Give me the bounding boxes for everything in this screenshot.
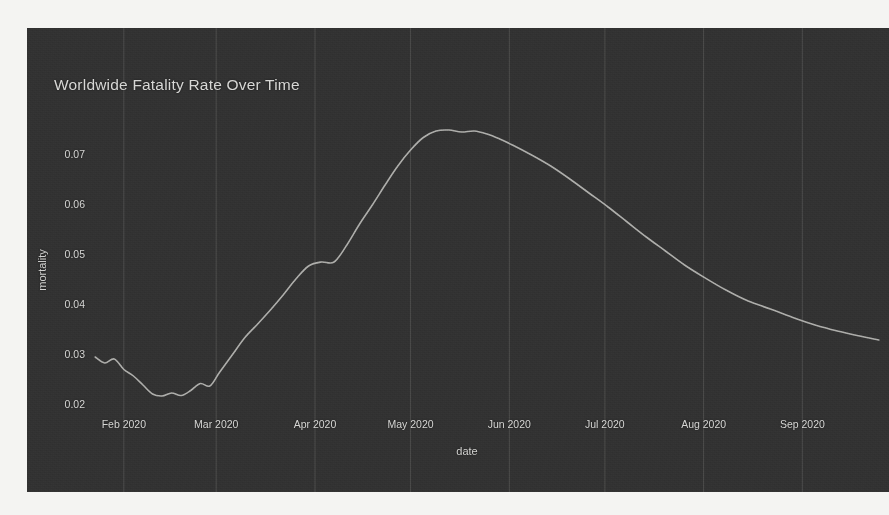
y-tick-label: 0.07 (65, 148, 85, 160)
x-axis-title: date (456, 445, 477, 457)
y-tick-label: 0.04 (65, 298, 85, 310)
x-tick-label: Sep 2020 (780, 418, 825, 430)
chart-panel: Worldwide Fatality Rate Over Time 0.020.… (27, 28, 889, 492)
chart-screenshot: Worldwide Fatality Rate Over Time 0.020.… (0, 0, 889, 515)
x-tick-label: Jul 2020 (585, 418, 625, 430)
x-tick-label: Aug 2020 (681, 418, 726, 430)
mortality-line-series (95, 130, 879, 396)
x-tick-label: Jun 2020 (488, 418, 531, 430)
y-tick-label: 0.03 (65, 348, 85, 360)
x-tick-label: Mar 2020 (194, 418, 238, 430)
plot-area (27, 28, 889, 492)
y-tick-label: 0.02 (65, 398, 85, 410)
x-tick-label: Feb 2020 (102, 418, 146, 430)
y-tick-label: 0.05 (65, 248, 85, 260)
y-axis-title: mortality (36, 249, 48, 291)
y-tick-label: 0.06 (65, 198, 85, 210)
x-tick-label: May 2020 (387, 418, 433, 430)
x-tick-label: Apr 2020 (294, 418, 337, 430)
